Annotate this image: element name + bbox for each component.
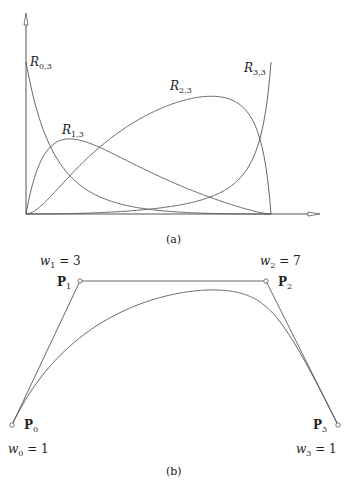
weight-label-w0: w0 = 1 (8, 443, 49, 458)
caption-b: (b) (166, 465, 182, 478)
basis-curve-r13 (26, 139, 271, 214)
y-axis-arrow-icon (24, 13, 28, 25)
curve-label-r2: R2,3 (170, 80, 192, 95)
point-label-p2: P2 (278, 276, 292, 291)
control-polygon (12, 281, 338, 425)
control-point-3-marker-icon (336, 423, 340, 427)
point-label-p0: P0 (24, 419, 38, 434)
control-point-1-marker-icon (78, 279, 82, 283)
curve-label-r1: R1,3 (62, 124, 84, 139)
control-point-0-marker-icon (10, 423, 14, 427)
weight-label-w2: w2 = 7 (260, 255, 301, 270)
curve-label-r0: R0,3 (30, 56, 52, 71)
weight-label-w3: w3 = 1 (296, 443, 337, 458)
curve-label-r3: R3,3 (244, 62, 266, 77)
caption-a: (a) (166, 233, 181, 246)
control-point-2-marker-icon (264, 279, 268, 283)
weight-label-w1: w1 = 3 (40, 255, 81, 270)
rational-bezier-curve (12, 290, 338, 425)
point-label-p1: P1 (57, 276, 71, 291)
x-axis-arrow-icon (308, 212, 320, 216)
basis-curve-r23 (26, 96, 271, 214)
point-label-p3: P3 (313, 419, 327, 434)
